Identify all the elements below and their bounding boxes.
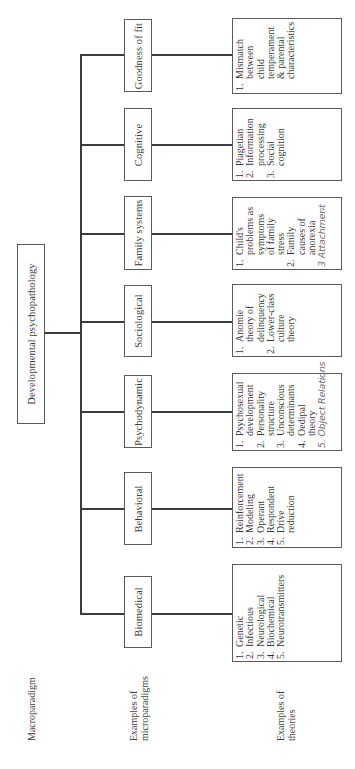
theory-item-text-line: reduction (286, 474, 296, 533)
theory-item-number: 5. (276, 652, 286, 660)
theories-list: 1.Reinforcement2.Modeling3.Operant4.Resp… (235, 474, 297, 545)
theory-item: 1.Child'sproblems assymptomsof familystr… (235, 204, 286, 267)
theories-list-container: 1.Anomietheory ofdelinquency2.Lower-clas… (233, 291, 343, 358)
row-label-theories: Examples of theories (275, 691, 297, 741)
row-label-theories-line1: Examples of (275, 691, 286, 741)
theories-list: 1.Child'sproblems assymptomsof familystr… (235, 204, 328, 267)
theory-item: 3.Unconsciousdeterminants (276, 380, 297, 448)
branch-line-to-theories-goodness-of-fit (152, 54, 232, 56)
branch-line-to-theories-family-systems (152, 233, 232, 235)
theory-item-text-line: theory (286, 291, 296, 342)
microparadigm-node-goodness-of-fit: Goodness of fit (124, 19, 152, 92)
root-node-developmental-psychopathology: Developmental psychopathology (17, 244, 45, 424)
theory-item: 1.Psychosexualdevelopment (235, 380, 256, 448)
handwritten-annotation-text: 5. Object Relations (317, 380, 327, 448)
trunk-line (80, 54, 82, 614)
microparadigm-label: Goodness of fit (133, 22, 144, 88)
theories-box-cognitive: 1.Piagetian2.Informationprocessing3.Soci… (232, 108, 342, 181)
theory-item: 2.Familycauses ofanorexia (286, 204, 317, 267)
branch-line-to-theories-biomedical (152, 613, 232, 615)
theory-item-number: 2. (266, 347, 276, 355)
microparadigm-label: Family systems (133, 199, 144, 266)
branch-line-to-theories-behavioral (152, 508, 232, 510)
row-label-theories-line2: theories (286, 691, 297, 741)
theory-item-text-line: cognition (276, 115, 286, 166)
theory-item-number: 1. (235, 347, 245, 355)
theory-item-number: 3. (276, 441, 286, 449)
theories-list-container: 1.Child'sproblems assymptomsof familystr… (233, 204, 343, 271)
branch-line-to-theories-cognitive (152, 144, 232, 146)
theories-list-container: 1.Mismatchbetweenchildtemperament& paren… (233, 25, 343, 95)
microparadigm-label: Cognitive (133, 123, 144, 165)
handwritten-annotation: 3 Attachment (317, 204, 327, 267)
branch-line-to-sociological (80, 321, 124, 323)
row-label-macroparadigm-text: Macroparadigm (26, 677, 37, 741)
theories-box-behavioral: 1.Reinforcement2.Modeling3.Operant4.Resp… (232, 467, 342, 548)
microparadigm-label: Behavioral (133, 485, 144, 532)
branch-line-to-goodness-of-fit (80, 54, 124, 56)
theories-list-container: 1.Psychosexualdevelopment2.Personalityst… (233, 380, 343, 452)
theory-item-number: 5. (276, 538, 286, 546)
theory-item-text-line: characteristics (286, 25, 296, 79)
theory-item-number: 3. (266, 171, 276, 179)
theories-list-container: 1.Reinforcement2.Modeling3.Operant4.Resp… (233, 474, 343, 549)
branch-line-to-theories-psychodynamic (152, 411, 232, 413)
theory-item: 3.Socialcognition (266, 115, 287, 178)
theory-item-number: 1. (235, 84, 245, 92)
microparadigm-node-psychodynamic: Psychodynamic (124, 375, 152, 448)
theory-item: 2.Personalitystructure (256, 380, 277, 448)
microparadigm-label: Sociological (133, 294, 144, 348)
theories-box-psychodynamic: 1.Psychosexualdevelopment2.Personalityst… (232, 373, 342, 451)
branch-line-to-family-systems (80, 233, 124, 235)
branch-line-to-cognitive (80, 144, 124, 146)
theories-box-goodness-of-fit: 1.Mismatchbetweenchildtemperament& paren… (232, 18, 342, 94)
theories-list: 1.Mismatchbetweenchildtemperament& paren… (235, 25, 297, 91)
theory-item: 5.Drivereduction (276, 474, 297, 545)
theory-item-number: 2. (245, 171, 255, 179)
theory-item-number: 2. (286, 260, 296, 268)
theories-list-container: 1.Genetic2.Infectious3.Neurological4.Bio… (233, 571, 343, 663)
theories-list: 1.Psychosexualdevelopment2.Personalityst… (235, 380, 328, 448)
microparadigm-node-cognitive: Cognitive (124, 108, 152, 181)
microparadigm-node-family-systems: Family systems (124, 196, 152, 270)
theories-list: 1.Anomietheory ofdelinquency2.Lower-clas… (235, 291, 297, 354)
theories-list: 1.Piagetian2.Informationprocessing3.Soci… (235, 115, 286, 178)
row-label-macroparadigm: Macroparadigm (26, 677, 37, 741)
handwritten-annotation-text: 3 Attachment (317, 204, 327, 267)
theory-item-number: 4. (297, 441, 307, 449)
row-label-microparadigms-line1: Examples of (128, 676, 139, 741)
row-label-microparadigms: Examples of microparadigms (128, 676, 150, 741)
theory-item-number: 1. (235, 260, 245, 268)
handwritten-annotation: 5. Object Relations (317, 380, 327, 448)
theory-item: 1.Mismatchbetweenchildtemperament& paren… (235, 25, 297, 91)
theory-item-number: 2. (256, 441, 266, 449)
branch-line-to-theories-sociological (152, 321, 232, 323)
theory-item: 1.Anomietheory ofdelinquency (235, 291, 266, 354)
microparadigm-label: Biomedical (133, 587, 144, 636)
theory-item: 4.Oedipaltheory (297, 380, 318, 448)
theory-item: 2.Informationprocessing (245, 115, 266, 178)
theory-item: 2.Lower-classculturetheory (266, 291, 297, 354)
branch-line-to-behavioral (80, 508, 124, 510)
theories-box-sociological: 1.Anomietheory ofdelinquency2.Lower-clas… (232, 284, 342, 357)
theories-list-container: 1.Piagetian2.Informationprocessing3.Soci… (233, 115, 343, 182)
theory-item-number: 1. (235, 441, 245, 449)
microparadigm-node-biomedical: Biomedical (124, 576, 152, 648)
root-connector-line (44, 332, 81, 334)
branch-line-to-biomedical (80, 613, 124, 615)
theory-item-text-line: Neurotransmitters (276, 571, 286, 647)
row-label-microparadigms-line2: microparadigms (139, 676, 150, 741)
root-node-label: Developmental psychopathology (26, 263, 37, 404)
microparadigm-label: Psychodynamic (133, 378, 144, 446)
theories-box-family-systems: 1.Child'sproblems assymptomsof familystr… (232, 197, 342, 270)
branch-line-to-psychodynamic (80, 411, 124, 413)
theories-box-biomedical: 1.Genetic2.Infectious3.Neurological4.Bio… (232, 564, 342, 662)
theories-list: 1.Genetic2.Infectious3.Neurological4.Bio… (235, 571, 286, 659)
microparadigm-node-behavioral: Behavioral (124, 472, 152, 545)
theory-item: 5.Neurotransmitters (276, 571, 286, 659)
microparadigm-node-sociological: Sociological (124, 285, 152, 357)
